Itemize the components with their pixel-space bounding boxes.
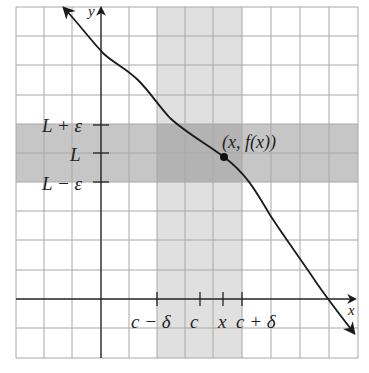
x-tick-label-c-plus-delta: c + δ [236, 311, 277, 332]
x-axis-label: x [347, 302, 355, 318]
x-tick-label-c-minus-delta: c − δ [131, 311, 172, 332]
point-label: (x, f(x)) [222, 132, 276, 153]
y-axis-label: y [86, 3, 95, 19]
y-tick-label-l-minus-eps: L − ε [41, 173, 83, 194]
x-tick-label-c: c [190, 311, 199, 332]
x-tick-label-x: x [217, 311, 227, 332]
y-tick-label-l-plus-eps: L + ε [41, 115, 83, 136]
point-x-fx [220, 153, 228, 161]
y-tick-label-l: L [69, 144, 81, 165]
epsilon-delta-diagram: y x L + ε L L − ε c − δ c x c + δ (x, f(… [0, 0, 369, 373]
